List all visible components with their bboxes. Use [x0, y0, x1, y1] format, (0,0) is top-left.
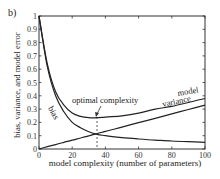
y-tick-label: 0.2 — [27, 118, 37, 127]
y-tick-label: 1 — [33, 12, 37, 21]
plot-frame — [39, 16, 205, 149]
y-tick-label: 0.6 — [27, 65, 37, 74]
annotation-variance: variance — [161, 93, 191, 109]
y-tick-label: 0.7 — [27, 52, 37, 61]
annotation-bias: bias — [46, 104, 61, 121]
y-tick-label: 0.9 — [27, 25, 37, 34]
y-tick-label: 0.5 — [27, 79, 37, 88]
y-tick-label: 0.3 — [27, 105, 37, 114]
chart-plot: 00.10.20.30.40.50.60.70.80.91 0204060801… — [0, 0, 220, 179]
y-tick-label: 0.4 — [27, 92, 37, 101]
y-ticks: 00.10.20.30.40.50.60.70.80.91 — [27, 12, 205, 154]
y-tick-label: 0.1 — [27, 132, 37, 141]
arrow-head-icon — [95, 112, 99, 117]
annotation-optimal: optimal complexity — [72, 95, 139, 105]
x-axis-label: model complexity (number of parameters) — [30, 158, 220, 168]
y-axis-label: bias, variance, and model error — [12, 10, 22, 160]
bias-curve — [39, 16, 205, 142]
curves — [39, 16, 205, 149]
y-tick-label: 0.8 — [27, 39, 37, 48]
